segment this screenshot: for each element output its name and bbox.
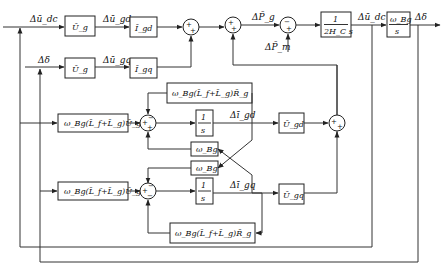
label-ugd: Δū_gd xyxy=(102,14,132,25)
block-integrator-num: ω_Bg xyxy=(390,15,412,24)
block-cross-wbg-top-text: ω_Bg xyxy=(196,145,218,154)
sumq-sign-b: − xyxy=(148,182,154,190)
wire-ugq-sumout xyxy=(304,132,337,193)
label-udc-in: Δū_dc xyxy=(29,14,58,25)
wire-igq-sum1 xyxy=(157,36,191,67)
sumd-sign-b: − xyxy=(148,114,154,122)
block-diagram: Δū_dc Ū_g Δū_gd Ī_gd + + + + ΔP̄_g − + Δ… xyxy=(0,0,442,270)
block-ugd-text: Ū_gd xyxy=(283,120,304,129)
wire-q-R-to-sum xyxy=(148,200,170,233)
block-inertia-num: 1 xyxy=(333,15,338,24)
label-igq: Δī_gq xyxy=(229,180,256,191)
label-udc-out: Δū_dc xyxy=(357,12,386,23)
wire-cross-to-sumd xyxy=(148,132,191,149)
block-inertia-den: 2H_C s xyxy=(323,27,353,36)
label-delta-in: Δδ xyxy=(37,55,50,65)
block-d-integ-num: 1 xyxy=(201,113,206,122)
block-igq-text: Ī_gq xyxy=(134,65,152,74)
sumq-sign-c: − xyxy=(147,192,153,200)
block-ug-mid-text: Ū_g xyxy=(72,65,88,74)
block-d-integ-den: s xyxy=(201,126,205,135)
block-igd-text: Ī_gd xyxy=(134,24,152,33)
block-q-integ-num: 1 xyxy=(201,181,206,190)
sumd-sign-c: + xyxy=(147,124,153,132)
label-ugq: Δū_gq xyxy=(102,55,132,66)
block-ug-top-text: Ū_g xyxy=(72,23,88,32)
block-q-R-feedback-text: ω_Bg(L̄_f+L̄_g)R̄_g xyxy=(175,229,251,238)
sum2-sign-b: + xyxy=(231,25,237,33)
sum1-sign-b: + xyxy=(190,27,196,35)
label-pm: ΔP̄_m xyxy=(264,41,291,53)
sumout-sign-b: + xyxy=(337,123,343,131)
block-q-integ-den: s xyxy=(201,194,205,203)
block-d-R-feedback-text: ω_Bg(L̄_f+L̄_g)R̄_g xyxy=(172,89,248,98)
label-delta-out: Δδ xyxy=(414,12,427,22)
sum3-sign-b: + xyxy=(286,25,292,33)
block-integrator-den: s xyxy=(395,27,399,36)
wire-cross-to-sumq xyxy=(148,168,191,183)
block-cross-wbg-bot-text: ω_Bg xyxy=(196,164,218,173)
block-ugq-text: Ū_gq xyxy=(283,191,304,200)
wire-d-R-to-sum xyxy=(148,93,167,114)
label-pg: ΔP̄_g xyxy=(251,11,275,23)
wire-igd-cross xyxy=(218,123,252,168)
